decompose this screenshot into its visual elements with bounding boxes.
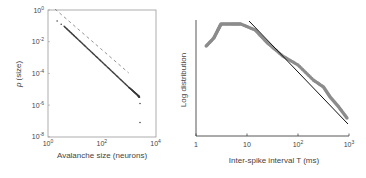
figure: 10010-210-410-610-8 100102104 Avalanche … [0,0,366,178]
left-y-tick-label: 100 [33,5,44,14]
left-x-tick-label: 102 [97,138,108,147]
power-law-fit-line [249,21,348,124]
left-x-tick-label: 100 [43,138,54,147]
left-x-tick-labels: 100102104 [43,138,161,147]
avalanche-points [56,20,140,123]
right-x-axis-title: Inter-spike interval T (ms) [229,156,320,165]
left-y-tick-label: 10-4 [32,68,44,77]
left-y-axis-title: p (size) [14,61,23,89]
left-y-tick-label: 10-2 [32,36,44,45]
reference-dashed-line [55,9,129,73]
left-x-axis-title: Avalanche size (neurons) [57,151,147,160]
left-panel-avalanche: 10010-210-410-610-8 100102104 Avalanche … [14,5,161,161]
left-y-tick-labels: 10010-210-410-610-8 [32,5,50,141]
left-x-tick-label: 104 [150,138,161,147]
right-x-tick-label: 102 [293,139,304,148]
right-panel-isi: 110102103 Inter-spike interval T (ms) Lo… [179,20,355,165]
right-x-tick-label: 1 [194,141,198,148]
isi-points [205,22,349,119]
right-y-axis-title: Log distribution [179,53,188,107]
right-x-tick-label: 103 [344,139,355,148]
left-plot-frame [48,10,156,137]
left-plot-data [55,9,141,123]
left-y-tick-label: 10-8 [32,131,44,140]
right-plot-data [205,21,349,124]
right-x-tick-label: 10 [243,141,251,148]
left-y-tick-label: 10-6 [32,100,44,109]
